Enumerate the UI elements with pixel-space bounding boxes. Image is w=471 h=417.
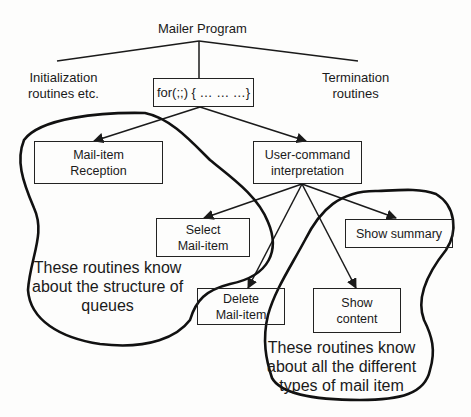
initialization-line-2: routines etc. [28,86,99,102]
initialization-routines-label: Initialization routines etc. [28,70,99,102]
mailer-program-diagram: Mailer Program Initialization routines e… [0,0,471,417]
node-line: interpretation [271,163,344,179]
annotation-line: about the structure of [32,277,183,296]
node-line: Delete [223,291,259,307]
user-command-interpretation-box: User-command interpretation [253,141,362,184]
show-summary-box: Show summary [345,219,453,248]
node-line: content [336,311,377,327]
initialization-line-1: Initialization [28,70,99,86]
annotation-line: about all the different [267,357,416,376]
node-line: Mail-item [73,147,124,163]
node-line: Select [186,222,221,238]
termination-line-1: Termination [322,70,389,86]
annotation-line: queues [32,296,183,315]
queues-group-annotation: These routines know about the structure … [32,258,183,315]
show-content-box: Show content [313,288,401,333]
node-line: User-command [265,147,350,163]
node-line: Show [341,295,372,311]
annotation-line: types of mail item [267,376,416,395]
root-branch-lines [57,41,358,78]
delete-mail-item-box: Delete Mail-item [197,288,285,325]
main-loop-label: for(;;) { … … …} [157,85,250,101]
termination-routines-label: Termination routines [322,70,389,102]
types-group-annotation: These routines know about all the differ… [267,338,416,395]
mail-item-reception-box: Mail-item Reception [34,141,163,184]
annotation-line: These routines know [32,258,183,277]
node-line: Show summary [356,226,442,242]
node-line: Mail-item [216,307,267,323]
termination-line-2: routines [322,86,389,102]
annotation-line: These routines know [267,338,416,357]
node-line: Reception [70,163,126,179]
select-mail-item-box: Select Mail-item [156,218,250,257]
main-loop-box: for(;;) { … … …} [153,78,254,107]
root-title: Mailer Program [158,21,247,37]
node-line: Mail-item [178,238,229,254]
